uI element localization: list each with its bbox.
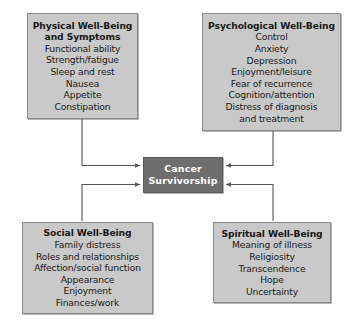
list-item: Strength/fatigue [45, 54, 121, 66]
list-item: Enjoyment/leisure [226, 66, 318, 78]
connector-physical-to-center [82, 119, 140, 166]
list-item: Affection/social function [34, 262, 141, 274]
list-item: Enjoyment [34, 285, 141, 297]
list-item: Fear of recurrence [226, 78, 318, 90]
list-item: Depression [226, 55, 318, 67]
node-psychological-items: Control Anxiety Depression Enjoyment/lei… [226, 31, 318, 124]
node-spiritual-items: Meaning of illness Religiosity Transcend… [232, 239, 312, 297]
list-item: Uncertainty [232, 286, 312, 298]
node-spiritual-title: Spiritual Well-Being [221, 228, 322, 240]
list-item: Meaning of illness [232, 239, 312, 251]
list-item: Family distress [34, 239, 141, 251]
node-physical-well-being: Physical Well-Being and Symptoms Functio… [27, 13, 138, 119]
list-item: Functional ability [45, 43, 121, 55]
list-item: Roles and relationships [34, 251, 141, 263]
node-physical-items: Functional ability Strength/fatigue Slee… [45, 43, 121, 113]
list-item: Anxiety [226, 43, 318, 55]
list-item: Appearance [34, 274, 141, 286]
node-cancer-survivorship: Cancer Survivorship [143, 157, 223, 193]
connector-psychological-to-center [226, 131, 273, 166]
node-social-well-being: Social Well-Being Family distress Roles … [22, 222, 153, 314]
list-item: and treatment [226, 113, 318, 125]
quality-of-life-diagram: Physical Well-Being and Symptoms Functio… [0, 0, 356, 323]
list-item: Nausea [45, 78, 121, 90]
list-item: Transcendence [232, 263, 312, 275]
node-spiritual-well-being: Spiritual Well-Being Meaning of illness … [213, 222, 331, 303]
node-psychological-well-being: Psychological Well-Being Control Anxiety… [202, 13, 341, 131]
node-physical-title: Physical Well-Being and Symptoms [33, 20, 133, 43]
list-item: Appetite [45, 89, 121, 101]
node-social-items: Family distress Roles and relationships … [34, 239, 141, 309]
node-psychological-title: Psychological Well-Being [208, 20, 335, 32]
list-item: Finances/work [34, 297, 141, 309]
list-item: Religiosity [232, 251, 312, 263]
node-social-title: Social Well-Being [43, 227, 131, 239]
list-item: Sleep and rest [45, 66, 121, 78]
list-item: Hope [232, 274, 312, 286]
list-item: Distress of diagnosis [226, 101, 318, 113]
list-item: Cognition/attention [226, 89, 318, 101]
connector-social-to-center [82, 185, 140, 222]
connector-spiritual-to-center [226, 185, 273, 222]
list-item: Constipation [45, 101, 121, 113]
center-node-label: Cancer Survivorship [148, 163, 217, 187]
list-item: Control [226, 31, 318, 43]
